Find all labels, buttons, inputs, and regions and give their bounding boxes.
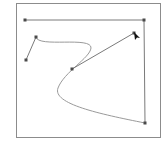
- polyline-path[interactable]: [25, 20, 145, 123]
- arrow-pointer-icon: [134, 32, 140, 40]
- node-top-left[interactable]: [24, 19, 27, 22]
- node-handle-a-end[interactable]: [25, 59, 28, 62]
- bezier-curve[interactable]: [36, 37, 145, 123]
- drawing-canvas[interactable]: [0, 0, 168, 146]
- vector-stage[interactable]: [0, 0, 168, 146]
- node-curve-start[interactable]: [35, 36, 38, 39]
- canvas-frame: [17, 4, 161, 138]
- node-curve-mid[interactable]: [71, 68, 74, 71]
- node-bottom-right[interactable]: [144, 122, 147, 125]
- control-handle-b[interactable]: [72, 33, 134, 69]
- control-handle-a[interactable]: [26, 37, 36, 60]
- node-top-right[interactable]: [143, 19, 146, 22]
